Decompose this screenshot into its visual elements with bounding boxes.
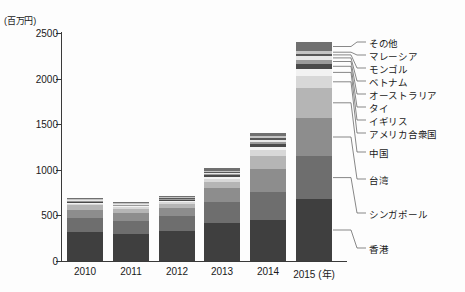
x-axis-line <box>61 261 347 262</box>
legend-leader-line <box>333 103 366 152</box>
y-axis-tick-label: 1500 <box>36 119 58 130</box>
legend-leader-line <box>333 82 366 133</box>
bar-segment <box>67 218 103 232</box>
legend-leader-line <box>333 55 366 68</box>
bar-2011 <box>113 202 149 261</box>
bar-segment <box>250 169 286 192</box>
bar-segment <box>113 234 149 261</box>
stacked-bar-chart: (百万円) 05001000150020002500 2010201120122… <box>0 0 465 292</box>
bar-segment <box>113 213 149 221</box>
legend-leader-line <box>333 66 366 107</box>
bar-segment <box>250 220 286 261</box>
bar-segment <box>296 88 332 118</box>
legend-leader-line <box>333 72 366 120</box>
bar-segment <box>159 216 195 231</box>
y-axis-tick-label: 0 <box>52 256 58 267</box>
bar-segment <box>67 232 103 261</box>
legend-label-ベトナム: ベトナム <box>369 75 408 89</box>
legend-label-中国: 中国 <box>369 146 388 160</box>
bar-segment <box>296 69 332 76</box>
plot-area: 05001000150020002500 <box>62 33 337 261</box>
bar-segment <box>296 118 332 156</box>
legend-label-オーストラリア: オーストラリア <box>369 88 437 102</box>
legend-label-香港: 香港 <box>369 242 388 256</box>
bar-segment <box>204 202 240 223</box>
bar-segment <box>296 42 332 51</box>
legend-label-シンガポール: シンガポール <box>369 207 427 221</box>
legend-leader-line <box>333 230 366 248</box>
legend-leader-line <box>333 178 366 213</box>
bar-segment <box>204 188 240 202</box>
bar-segment <box>204 223 240 261</box>
x-axis-label-2015: 2015 (年) <box>278 266 350 281</box>
legend-label-タイ: タイ <box>369 101 388 115</box>
bar-segment <box>67 210 103 219</box>
y-axis-unit-label: (百万円) <box>4 14 36 27</box>
bar-2013 <box>204 168 240 261</box>
y-axis-tick-label: 1000 <box>36 164 58 175</box>
legend-label-モンゴル: モンゴル <box>369 62 408 76</box>
y-axis-tick-label: 2500 <box>36 28 58 39</box>
bar-2015 <box>296 42 332 261</box>
legend-leader-line <box>333 58 366 81</box>
y-axis-tick-label: 2000 <box>36 73 58 84</box>
bar-2010 <box>67 198 103 261</box>
legend-label-マレーシア: マレーシア <box>369 49 418 63</box>
bar-segment <box>113 221 149 234</box>
bar-segment <box>296 199 332 261</box>
bar-segment <box>159 208 195 217</box>
legend-leader-line <box>333 62 366 95</box>
bar-2014 <box>250 133 286 261</box>
bar-segment <box>250 192 286 219</box>
bar-segment <box>159 231 195 261</box>
legend-label-アメリカ合衆国: アメリカ合衆国 <box>369 127 437 141</box>
y-axis-tick-label: 500 <box>41 210 58 221</box>
legend-label-その他: その他 <box>369 36 398 50</box>
bar-segment <box>250 156 286 170</box>
legend-label-イギリス: イギリス <box>369 114 408 128</box>
bar-segment <box>296 76 332 88</box>
legend-label-台湾: 台湾 <box>369 173 388 187</box>
legend-leader-line <box>333 42 366 47</box>
legend-leader-line <box>333 137 366 179</box>
legend-leader-line <box>333 52 366 55</box>
bar-segment <box>296 156 332 199</box>
bar-2012 <box>159 196 195 261</box>
